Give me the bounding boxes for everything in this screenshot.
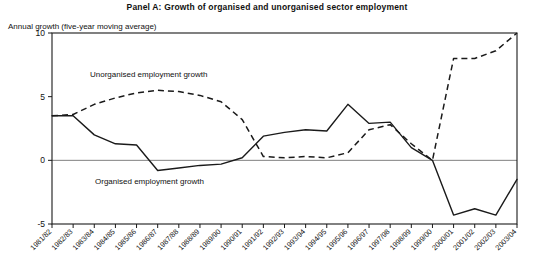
series-unorganised-line — [52, 33, 517, 160]
series-organised-line — [52, 104, 517, 215]
y-axis-tick-group: -50510 — [36, 28, 52, 229]
x-axis-tick-label: 1995/96 — [324, 227, 349, 252]
x-axis-tick-label: 2001/02 — [451, 227, 476, 252]
x-axis-tick-label: 2000/01 — [430, 227, 455, 252]
x-axis-tick-label: 2002/03 — [472, 227, 497, 252]
x-axis-tick-label: 1987/88 — [155, 227, 180, 252]
y-axis-tick-label: 0 — [40, 155, 45, 165]
y-axis-tick-label: -5 — [37, 219, 45, 229]
x-axis-tick-label: 1983/84 — [71, 227, 96, 252]
x-axis-tick-label: 1994/95 — [303, 227, 328, 252]
annotation-unorganised: Unorganised employment growth — [90, 70, 207, 79]
x-axis-tick-label: 2003/04 — [493, 227, 518, 252]
x-axis-tick-label: 1998/99 — [388, 227, 413, 252]
y-axis-caption: Annual growth (five-year moving average) — [8, 22, 157, 31]
x-axis-tick-label: 1989/90 — [197, 227, 222, 252]
x-axis-tick-label: 1993/94 — [282, 227, 307, 252]
x-axis-tick-label: 1991/92 — [240, 227, 265, 252]
y-axis-tick-label: 5 — [40, 92, 45, 102]
x-axis-tick-label: 1990/91 — [219, 227, 244, 252]
line-chart-plot: -50510 Unorganised employment growth Org… — [0, 0, 534, 269]
x-axis-tick-label: 1982/83 — [50, 227, 75, 252]
x-axis-tick-label: 1985/86 — [113, 227, 138, 252]
annotation-organised: Organised employment growth — [95, 177, 204, 186]
x-axis-tick-label: 1984/85 — [92, 227, 117, 252]
x-axis-tick-label: 1988/89 — [176, 227, 201, 252]
x-axis-label-group: 1981/821982/831983/841984/851985/861986/… — [28, 227, 518, 252]
x-axis-tick-label: 1986/87 — [134, 227, 159, 252]
page-title: Panel A: Growth of organised and unorgan… — [0, 2, 534, 12]
x-axis-tick-label: 1992/93 — [261, 227, 286, 252]
x-axis-tick-label: 1981/82 — [28, 227, 53, 252]
chart-figure: Panel A: Growth of organised and unorgan… — [0, 0, 534, 269]
x-axis-tick-label: 1996/97 — [345, 227, 370, 252]
x-axis-tick-label: 1997/98 — [367, 227, 392, 252]
x-axis-tick-label: 1999/00 — [409, 227, 434, 252]
plot-frame — [52, 33, 517, 224]
